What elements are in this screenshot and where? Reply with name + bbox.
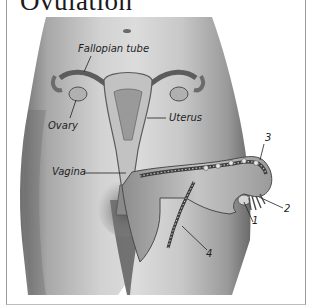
label-uterus: Uterus — [169, 112, 202, 123]
callout-4: 4 — [206, 248, 212, 259]
label-ovary: Ovary — [48, 120, 78, 131]
anatomy-illustration — [0, 0, 311, 307]
callout-2: 2 — [284, 203, 290, 214]
callout-3: 3 — [265, 132, 271, 143]
callout-1: 1 — [252, 215, 258, 226]
label-vagina: Vagina — [52, 166, 86, 177]
label-fallopian-tube: Fallopian tube — [78, 43, 149, 54]
